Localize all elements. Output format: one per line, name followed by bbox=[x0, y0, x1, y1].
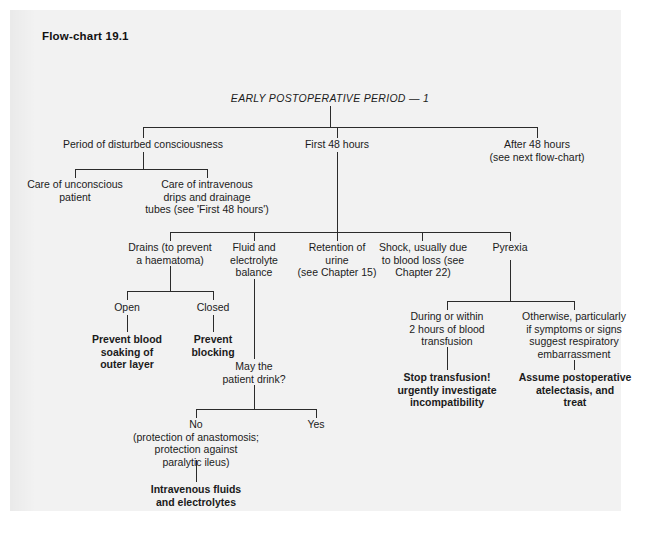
connector-drop-retention bbox=[337, 232, 338, 241]
connector-drop-disturbed bbox=[143, 127, 144, 138]
connector-drop-closed bbox=[213, 291, 214, 300]
connector-disturbed-stem bbox=[143, 152, 144, 170]
connector-drop-care-iv bbox=[207, 169, 208, 178]
node-root: EARLY POSTOPERATIVE PERIOD — 1 bbox=[220, 92, 440, 105]
connector-drop-otherwise bbox=[574, 301, 575, 310]
connector-drink-stem bbox=[254, 385, 255, 410]
connector-drop-yes bbox=[316, 409, 317, 418]
connector-drains-bar bbox=[127, 291, 213, 292]
node-otherwise-respiratory: Otherwise, particularly if symptoms or s… bbox=[504, 310, 644, 360]
connector-drop-fluid bbox=[254, 232, 255, 241]
node-assume-atelectasis: Assume postoperative atelectasis, and tr… bbox=[506, 371, 644, 409]
node-care-of-intravenous-drips: Care of intravenous drips and drainage t… bbox=[134, 178, 280, 216]
node-no-protection: No (protection of anastomosis; protectio… bbox=[120, 418, 272, 468]
connector-disturbed-bar bbox=[75, 169, 207, 170]
node-shock: Shock, usually due to blood loss (see Ch… bbox=[365, 241, 481, 279]
node-first-48-hours: First 48 hours bbox=[277, 138, 397, 151]
node-intravenous-fluids: Intravenous fluids and electrolytes bbox=[132, 483, 260, 508]
connector-drop-pyrexia bbox=[510, 232, 511, 241]
node-prevent-blocking: Prevent blocking bbox=[170, 333, 256, 358]
connector-drop-after48 bbox=[537, 127, 538, 138]
connector-drink-bar bbox=[196, 409, 316, 410]
connector-drop-first48 bbox=[337, 127, 338, 138]
node-fluid-electrolyte-balance: Fluid and electrolyte balance bbox=[216, 241, 292, 279]
scanned-page: Flow-chart 19.1 bbox=[10, 10, 621, 511]
connector-drains-stem bbox=[170, 266, 171, 292]
connector-drop-shock bbox=[422, 232, 423, 241]
connector-drop-care-unconscious bbox=[75, 169, 76, 178]
connector-pyrexia-bar bbox=[447, 301, 574, 302]
node-after-48-hours: After 48 hours (see next flow-chart) bbox=[465, 138, 609, 163]
connector-drop-during-transfusion bbox=[447, 301, 448, 310]
connector-transfusion-to-stop bbox=[447, 347, 448, 370]
connector-drop-no bbox=[196, 409, 197, 418]
connector-otherwise-to-assume bbox=[574, 360, 575, 370]
connector-drop-open bbox=[127, 291, 128, 300]
connector-drop-drains bbox=[170, 232, 171, 241]
flow-chart-screenshot: Flow-chart 19.1 bbox=[0, 0, 651, 534]
connector-closed-to-prevent-blocking bbox=[213, 315, 214, 332]
node-open: Open bbox=[97, 301, 157, 314]
page-title: Flow-chart 19.1 bbox=[42, 30, 129, 42]
node-drains: Drains (to prevent a haematoma) bbox=[110, 241, 230, 266]
node-pyrexia: Pyrexia bbox=[480, 241, 540, 254]
node-yes: Yes bbox=[288, 418, 344, 431]
node-disturbed-consciousness: Period of disturbed consciousness bbox=[48, 138, 238, 151]
node-prevent-blood-soaking: Prevent blood soaking of outer layer bbox=[70, 333, 184, 371]
node-stop-transfusion: Stop transfusion! urgently investigate i… bbox=[386, 371, 508, 409]
node-may-the-patient-drink: May the patient drink? bbox=[200, 360, 308, 385]
node-care-of-unconscious-patient: Care of unconscious patient bbox=[16, 178, 134, 203]
connector-first48-stem bbox=[337, 152, 338, 232]
connector-first48-bar bbox=[170, 232, 510, 233]
connector-pyrexia-stem bbox=[510, 260, 511, 302]
connector-open-to-prevent-blood bbox=[127, 315, 128, 332]
connector-level1-bar bbox=[143, 127, 538, 128]
node-closed: Closed bbox=[183, 301, 243, 314]
node-during-or-within-2-hours: During or within 2 hours of blood transf… bbox=[392, 310, 502, 348]
connector-root-stem bbox=[330, 106, 331, 128]
